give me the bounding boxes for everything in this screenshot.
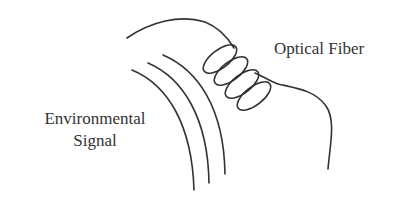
optical-fiber-curve-left <box>127 19 234 48</box>
signal-arc-3 <box>163 55 225 174</box>
environmental-signal-label: Environmental Signal <box>24 108 166 152</box>
environmental-label-line2: Signal <box>24 130 166 152</box>
fiber-sensing-diagram: Optical Fiber Environmental Signal <box>0 0 411 200</box>
diagram-drawing <box>0 0 411 200</box>
environmental-label-line1: Environmental <box>24 108 166 130</box>
optical-fiber-label: Optical Fiber <box>274 38 364 60</box>
optical-fiber-curve-right <box>255 73 332 169</box>
